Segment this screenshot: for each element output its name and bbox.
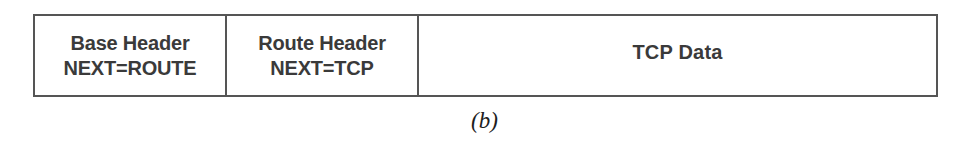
packet-format-figure: Base Header NEXT=ROUTE Route Header NEXT… [0, 0, 969, 147]
packet-field-route-header: Route Header NEXT=TCP [225, 16, 417, 95]
base-header-next-field: NEXT=ROUTE [63, 56, 196, 81]
figure-caption: (b) [0, 106, 969, 136]
base-header-title: Base Header [71, 31, 190, 56]
tcp-data-label: TCP Data [632, 40, 722, 65]
packet-field-tcp-data: TCP Data [417, 16, 936, 95]
packet-diagram: Base Header NEXT=ROUTE Route Header NEXT… [33, 14, 938, 97]
route-header-next-field: NEXT=TCP [270, 56, 373, 81]
route-header-title: Route Header [258, 31, 386, 56]
packet-field-base-header: Base Header NEXT=ROUTE [35, 16, 225, 95]
